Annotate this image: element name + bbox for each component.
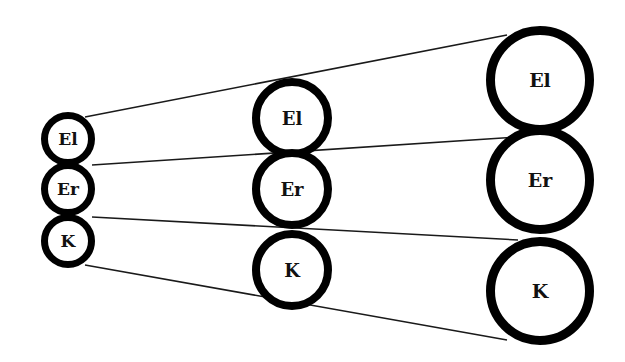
label-k-small: K — [61, 231, 77, 251]
label-el-small: El — [58, 129, 78, 149]
label-el-medium: El — [282, 108, 303, 129]
column-large: ElErK — [491, 31, 590, 341]
column-medium: ElErK — [256, 82, 328, 306]
label-k-medium: K — [284, 260, 301, 281]
label-er-medium: Er — [280, 179, 304, 200]
label-k-large: K — [532, 280, 550, 302]
label-er-large: Er — [528, 169, 553, 191]
circle-columns: ElErKElErKElErK — [45, 31, 590, 341]
diagram-canvas: ElErKElErKElErK — [0, 0, 625, 362]
label-er-small: Er — [57, 179, 80, 199]
label-el-large: El — [529, 69, 551, 91]
column-small: ElErK — [45, 116, 92, 265]
